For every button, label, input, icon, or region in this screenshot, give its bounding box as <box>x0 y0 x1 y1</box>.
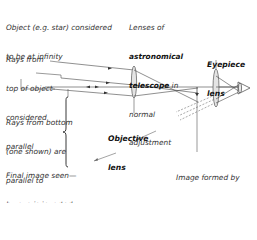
final-image-line2: by eye is inverted, <box>6 200 93 203</box>
rays-top-line2: top of object <box>6 84 53 94</box>
image-formed-label: Image formed by objective lens acts as o… <box>176 154 245 203</box>
objective-lens-label: Objective lens <box>108 115 148 182</box>
final-image-line1: Final image seen— <box>6 171 93 181</box>
rays-top-line1: Rays from <box>6 55 53 65</box>
object-label-line1: Object (e.g. star) considered <box>6 23 112 33</box>
lenses-label-bold-telescope: telescope <box>129 81 169 90</box>
objective-lens-label-line2: lens <box>108 163 148 173</box>
final-image-label: Final image seen— by eye is inverted, fo… <box>6 152 93 203</box>
lenses-label-bold-astronomical: astronomical <box>129 52 183 61</box>
lenses-label-line1: Lenses of <box>129 23 183 33</box>
image-formed-line1: Image formed by <box>176 173 245 183</box>
eyepiece-lens-label-line1: Eyepiece <box>207 60 245 70</box>
eyepiece-lens-label: Eyepiece lens <box>207 41 245 108</box>
rays-bottom-line1: Rays from bottom <box>6 118 73 128</box>
eyepiece-lens-label-line2: lens <box>207 89 245 99</box>
lenses-label-in: in <box>169 81 178 90</box>
image-formed-line2: objective lens acts <box>176 202 245 203</box>
objective-lens-label-line1: Objective <box>108 134 148 144</box>
